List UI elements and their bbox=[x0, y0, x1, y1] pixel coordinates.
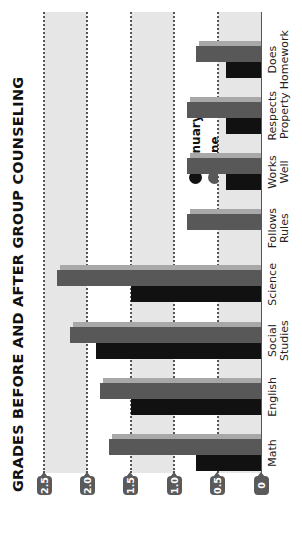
category-label: FollowsRules bbox=[267, 198, 291, 258]
y-tick-label: 1.0 bbox=[167, 476, 182, 495]
category-label-line2: Well bbox=[279, 142, 291, 202]
gridline bbox=[43, 12, 45, 473]
bar-january bbox=[196, 455, 261, 471]
bar-june bbox=[100, 383, 261, 399]
bar-june bbox=[109, 439, 261, 455]
bar-june bbox=[187, 214, 261, 230]
category-label-line2: Studies bbox=[279, 311, 291, 371]
category-label-line1: Math bbox=[267, 423, 279, 483]
chart-stage: GRADES BEFORE AND AFTER GROUP COUNSELING… bbox=[0, 0, 302, 538]
y-tick-label: 0.5 bbox=[210, 476, 225, 495]
bar-june bbox=[57, 270, 261, 286]
category-label: English bbox=[267, 367, 279, 427]
grid-band bbox=[44, 12, 87, 473]
bar-january bbox=[226, 118, 261, 134]
category-label-line2: Rules bbox=[279, 198, 291, 258]
bar-june bbox=[70, 327, 261, 343]
category-label: WorksWell bbox=[267, 142, 291, 202]
bar-january bbox=[226, 62, 261, 78]
category-label: Science bbox=[267, 254, 279, 314]
bar-january bbox=[131, 399, 261, 415]
bar-january bbox=[96, 343, 261, 359]
bar-june bbox=[187, 158, 261, 174]
category-label-line1: Science bbox=[267, 254, 279, 314]
category-label-line1: English bbox=[267, 367, 279, 427]
y-tick-label: 2.0 bbox=[80, 476, 95, 495]
y-tick-label: 2.5 bbox=[37, 476, 52, 495]
bar-january bbox=[131, 286, 261, 302]
category-label: DoesHomework bbox=[267, 30, 291, 90]
category-label: Math bbox=[267, 423, 279, 483]
bar-january bbox=[226, 174, 261, 190]
category-label-line2: Property bbox=[279, 86, 291, 146]
category-label-line2: Homework bbox=[279, 30, 291, 90]
chart-title: GRADES BEFORE AND AFTER GROUP COUNSELING bbox=[10, 77, 26, 492]
bar-june bbox=[187, 102, 261, 118]
category-label: RespectsProperty bbox=[267, 86, 291, 146]
bar-june bbox=[196, 46, 261, 62]
category-label: SocialStudies bbox=[267, 311, 291, 371]
y-tick-label: 1.5 bbox=[123, 476, 138, 495]
gridline bbox=[86, 12, 88, 473]
